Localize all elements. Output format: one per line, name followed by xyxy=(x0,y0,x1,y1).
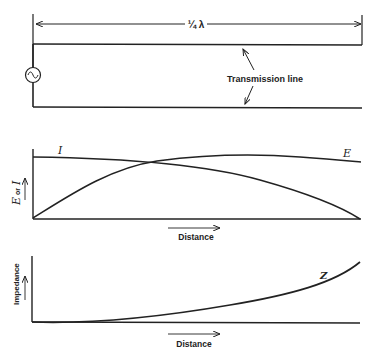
transmission-line-panel: ¼ λ Transmission line xyxy=(26,14,363,108)
figure-svg: ¼ λ Transmission line I xyxy=(0,0,371,353)
voltage-curve xyxy=(33,155,361,218)
x-axis-label: Distance xyxy=(178,232,214,242)
x-axis-label: Distance xyxy=(176,339,212,349)
y-label-E: E xyxy=(10,197,23,206)
transmission-line-label: Transmission line xyxy=(227,74,303,84)
ac-source-icon xyxy=(26,68,41,83)
y-label-or: or xyxy=(14,188,21,195)
bottom-conductor xyxy=(33,107,362,108)
figure-canvas: ¼ λ Transmission line I xyxy=(0,0,371,353)
curve-label-Z: Z xyxy=(319,270,328,281)
quarter-wavelength-label: ¼ λ xyxy=(188,19,205,30)
y-label-I: I xyxy=(10,180,23,186)
impedance-chart: Z Impedance Distance xyxy=(12,256,360,349)
pointer-arrow-top xyxy=(243,49,254,70)
y-axis-label: Impedance xyxy=(12,263,21,305)
y-axis-label: E or I xyxy=(10,180,23,206)
curve-label-E: E xyxy=(342,147,351,160)
voltage-current-chart: I E E or I Distance xyxy=(10,144,361,242)
top-conductor xyxy=(33,44,362,45)
curve-label-I: I xyxy=(57,144,63,157)
impedance-curve xyxy=(32,262,360,322)
pointer-arrow-bottom xyxy=(245,86,253,104)
